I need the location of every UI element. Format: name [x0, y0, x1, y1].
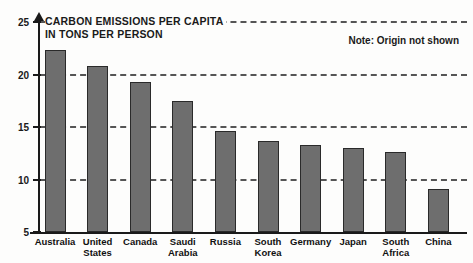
- bar-south-africa: [385, 152, 406, 232]
- category-label-canada: Canada: [119, 236, 162, 247]
- category-label-australia: Australia: [34, 236, 77, 247]
- chart-title: CARBON EMISSIONS PER CAPITA IN TONS PER …: [45, 15, 226, 40]
- bar-canada: [130, 82, 151, 232]
- chart-note: Note: Origin not shown: [346, 35, 461, 46]
- y-tick-5: [33, 231, 41, 233]
- bar-japan: [343, 148, 364, 232]
- y-tick-15: [33, 126, 41, 128]
- bar-australia: [45, 50, 66, 232]
- y-tick-label-5: 5: [23, 227, 29, 238]
- category-label-japan: Japan: [332, 236, 375, 247]
- category-label-south-africa: South Africa: [375, 236, 418, 258]
- y-tick-label-10: 10: [18, 174, 29, 185]
- bar-russia: [215, 131, 236, 232]
- bar-china: [428, 189, 449, 232]
- bar-saudi-arabia: [172, 101, 193, 232]
- category-label-china: China: [417, 236, 460, 247]
- carbon-emissions-bar-chart: CARBON EMISSIONS PER CAPITA IN TONS PER …: [0, 0, 473, 263]
- bar-germany: [300, 145, 321, 232]
- y-tick-label-20: 20: [18, 69, 29, 80]
- y-tick-25: [33, 21, 41, 23]
- x-axis-line: [30, 232, 467, 234]
- bar-south-korea: [258, 141, 279, 232]
- bar-united-states: [87, 66, 108, 232]
- category-label-south-korea: South Korea: [247, 236, 290, 258]
- category-label-united-states: United States: [76, 236, 119, 258]
- y-tick-label-15: 15: [18, 122, 29, 133]
- category-label-saudi-arabia: Saudi Arabia: [162, 236, 205, 258]
- y-tick-20: [33, 74, 41, 76]
- category-label-russia: Russia: [204, 236, 247, 247]
- y-tick-10: [33, 179, 41, 181]
- category-label-germany: Germany: [289, 236, 332, 247]
- y-tick-label-25: 25: [18, 17, 29, 28]
